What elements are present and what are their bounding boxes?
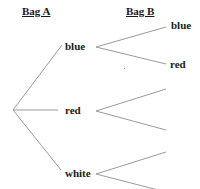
probability-tree-diagram: Bag A Bag B blue red white blue red <box>0 0 200 189</box>
branch-red-upper <box>96 89 166 111</box>
tree-branches <box>0 0 200 189</box>
branch-red-lower <box>96 111 166 130</box>
branch-root-to-blue <box>13 45 62 110</box>
branch-white-upper <box>96 152 166 174</box>
bag-b-header: Bag B <box>126 5 154 17</box>
first-stage-red-label: red <box>65 104 81 116</box>
second-stage-blue-blue-label: blue <box>171 19 191 31</box>
bag-a-header: Bag A <box>22 5 50 17</box>
branch-blue-to-red <box>96 47 166 64</box>
branch-blue-to-blue <box>96 27 166 47</box>
branch-white-lower <box>96 174 166 189</box>
first-stage-white-label: white <box>65 167 91 179</box>
second-stage-blue-red-label: red <box>170 58 186 70</box>
first-stage-blue-label: blue <box>65 40 85 52</box>
branch-root-to-white <box>13 110 61 170</box>
stray-dot <box>124 68 125 69</box>
